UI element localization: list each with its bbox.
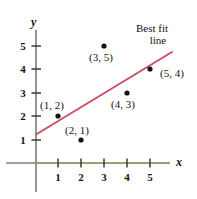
data-point-5-4 xyxy=(147,66,152,71)
x-tick-label-5: 5 xyxy=(145,172,155,183)
data-point-2-1 xyxy=(78,137,83,142)
y-tick-label-3: 3 xyxy=(18,88,28,99)
x-tick-label-1: 1 xyxy=(53,172,63,183)
scatter-plot-figure: y x 1 2 3 4 5 5 4 3 2 1 (1, 2) (2, 1) (3… xyxy=(0,0,197,199)
point-label-5-4: (5, 4) xyxy=(154,68,190,79)
best-fit-line-annotation: Best fit line xyxy=(120,22,184,47)
y-axis-label: y xyxy=(31,16,36,28)
data-point-1-2 xyxy=(55,113,60,118)
best-fit-line xyxy=(36,52,172,135)
data-point-3-5 xyxy=(101,43,106,48)
point-label-1-2: (1, 2) xyxy=(34,100,70,111)
x-tick-label-4: 4 xyxy=(122,172,132,183)
x-axis-label: x xyxy=(176,156,182,168)
x-tick-label-3: 3 xyxy=(99,172,109,183)
x-tick-label-2: 2 xyxy=(76,172,86,183)
best-fit-line-annotation-line2: line xyxy=(120,34,184,46)
best-fit-line-annotation-line1: Best fit xyxy=(120,22,184,34)
y-tick-label-2: 2 xyxy=(18,111,28,122)
point-label-2-1: (2, 1) xyxy=(59,125,95,136)
y-tick-label-1: 1 xyxy=(18,135,28,146)
data-point-4-3 xyxy=(124,90,129,95)
y-tick-label-4: 4 xyxy=(18,64,28,75)
y-tick-label-5: 5 xyxy=(18,41,28,52)
point-label-4-3: (4, 3) xyxy=(105,99,141,110)
point-label-3-5: (3, 5) xyxy=(83,52,119,63)
